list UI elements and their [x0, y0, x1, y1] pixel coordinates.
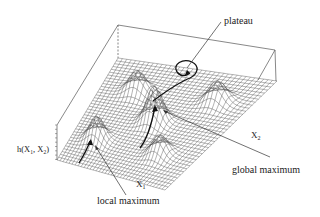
- mesh-line-x2: [82, 118, 211, 145]
- box-back-right-vertical: [275, 50, 276, 81]
- x1-axis-label: X1: [136, 179, 146, 190]
- global-maximum-label: global maximum: [232, 164, 300, 175]
- plateau-leader: [187, 22, 221, 68]
- box-right-diagonal: [258, 50, 275, 80]
- mesh-line-x2: [76, 123, 200, 157]
- fitness-landscape-diagram: plateau global maximum local maximum X2 …: [0, 0, 320, 217]
- local-maximum-label: local maximum: [97, 195, 160, 206]
- x2-axis-label: X2: [251, 130, 261, 141]
- mesh-line-x1: [99, 67, 180, 172]
- mesh-line-x2: [60, 154, 171, 184]
- local-maximum-leader: [96, 147, 126, 195]
- box-top-back-edge: [118, 25, 275, 50]
- local-climb-arrowhead: [87, 139, 93, 145]
- z-axis-label: h(X1, X2): [17, 144, 49, 155]
- plateau-label: plateau: [224, 15, 253, 26]
- mesh-line-x2: [115, 64, 271, 87]
